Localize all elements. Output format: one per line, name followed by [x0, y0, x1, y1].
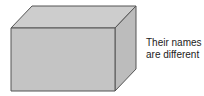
caption-line-1: Their names	[146, 37, 202, 49]
caption-line-2: are different	[146, 49, 202, 61]
box-top-face	[11, 6, 136, 28]
box-front-face	[11, 28, 115, 91]
box-caption: Their names are different	[146, 37, 202, 61]
